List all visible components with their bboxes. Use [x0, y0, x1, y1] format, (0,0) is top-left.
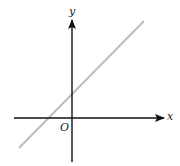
diagram-canvas [0, 0, 180, 166]
origin-label: O [60, 122, 69, 133]
x-axis-label: x [167, 111, 173, 122]
coordinate-diagram: y x O [0, 0, 180, 166]
graphed-line [19, 21, 144, 148]
y-axis-label: y [69, 6, 75, 17]
